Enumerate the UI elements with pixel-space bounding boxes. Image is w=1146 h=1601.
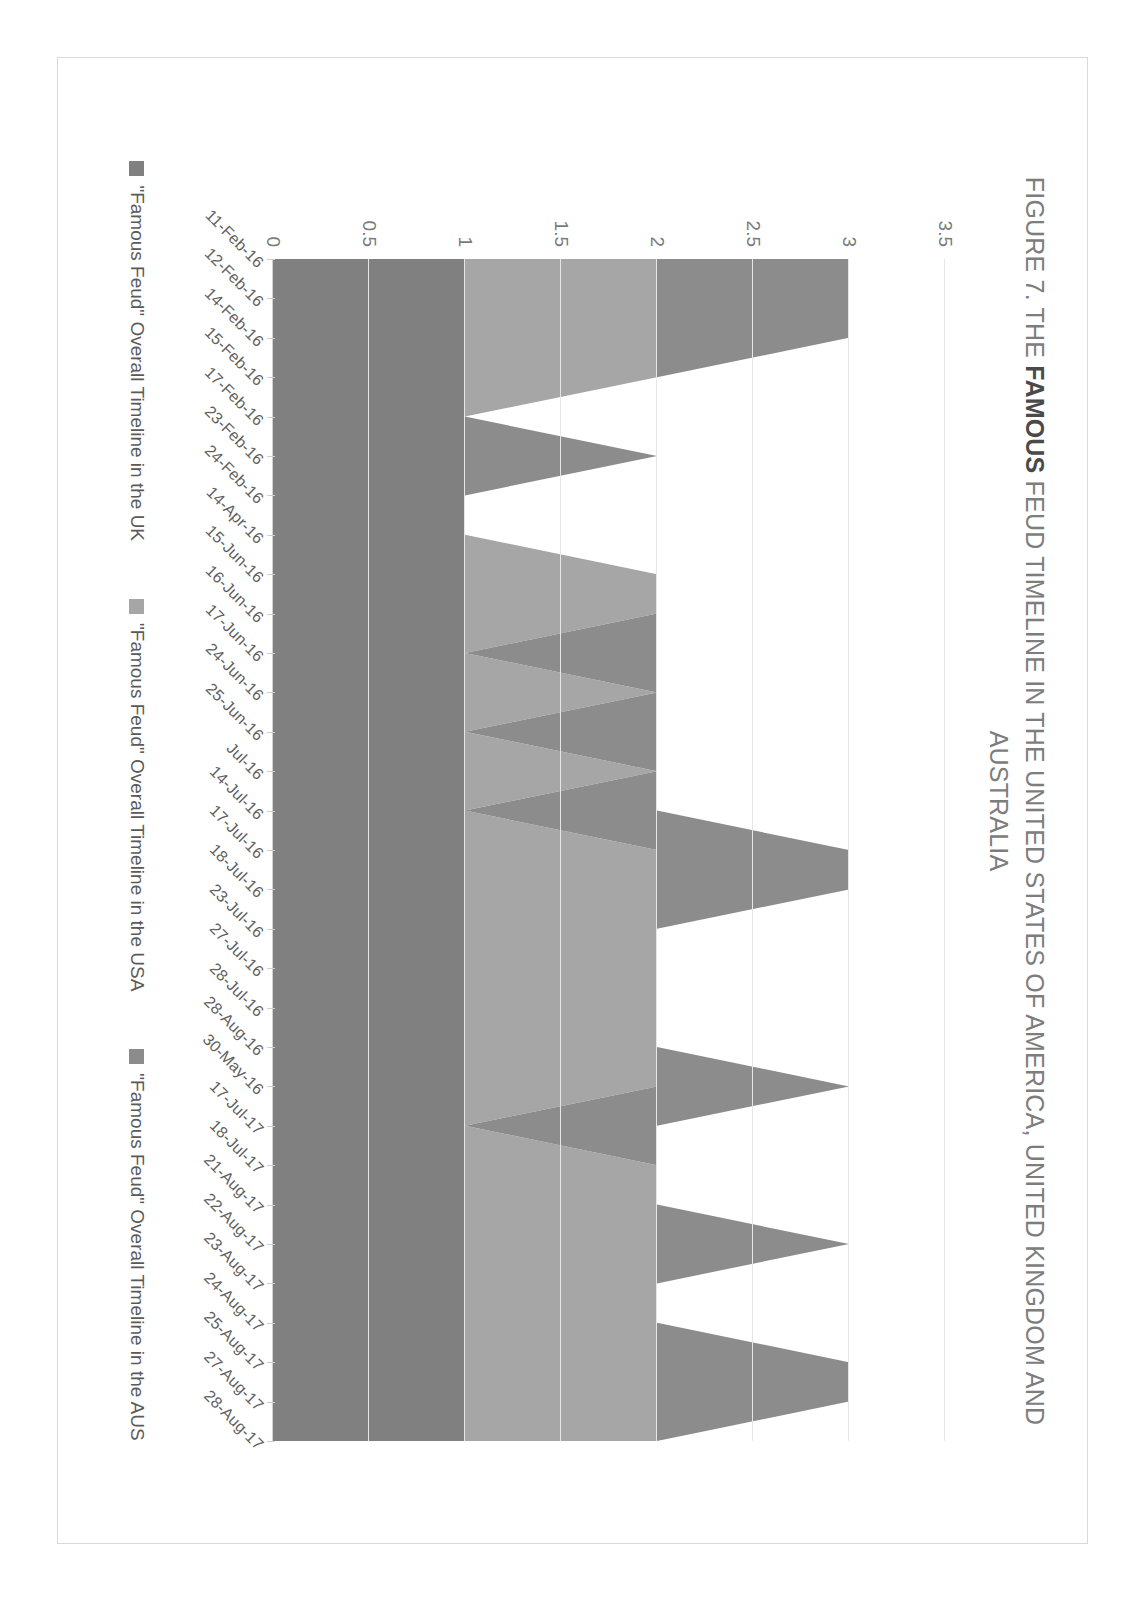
gridline	[752, 259, 753, 1441]
category-tick	[267, 613, 275, 614]
category-tick	[267, 1322, 275, 1323]
gridline	[560, 259, 561, 1441]
legend-swatch-icon	[130, 161, 145, 176]
value-axis-tick-label: 2	[646, 236, 668, 247]
category-tick	[267, 810, 275, 811]
category-tick	[267, 1165, 275, 1166]
plot-area: 00.511.522.533.5	[273, 259, 945, 1441]
category-tick	[267, 1086, 275, 1087]
category-tick	[267, 1441, 275, 1442]
category-tick	[267, 968, 275, 969]
category-tick	[267, 495, 275, 496]
category-tick	[267, 1007, 275, 1008]
value-axis-tick-label: 2.5	[742, 220, 764, 246]
gridline	[368, 259, 369, 1441]
category-tick	[267, 337, 275, 338]
value-axis-tick-label: 3	[838, 236, 860, 247]
legend-swatch-icon	[130, 1049, 145, 1064]
legend-swatch-icon	[130, 599, 145, 614]
category-tick	[267, 574, 275, 575]
value-axis-tick-label: 1.5	[550, 220, 572, 246]
category-tick	[267, 259, 275, 260]
legend-label: "Famous Feud" Overall Timeline in the UK	[126, 185, 148, 541]
gridline	[848, 259, 849, 1441]
title-bold-famous: FAMOUS	[1021, 365, 1049, 473]
category-tick	[267, 456, 275, 457]
legend-item[interactable]: "Famous Feud" Overall Timeline in the US…	[126, 599, 148, 991]
legend-item[interactable]: "Famous Feud" Overall Timeline in the UK	[126, 161, 148, 541]
legend-item[interactable]: "Famous Feud" Overall Timeline in the AU…	[126, 1049, 148, 1440]
title-prefix: FIGURE 7. THE	[1021, 176, 1049, 364]
category-tick	[267, 850, 275, 851]
category-tick	[267, 1283, 275, 1284]
category-tick	[267, 377, 275, 378]
legend-label: "Famous Feud" Overall Timeline in the US…	[126, 623, 148, 991]
gridline	[464, 259, 465, 1441]
figure-page: FIGURE 7. THE FAMOUS FEUD TIMELINE IN TH…	[0, 0, 1146, 1601]
category-tick	[267, 1125, 275, 1126]
category-tick	[267, 1401, 275, 1402]
stacked-area-series-group	[273, 259, 945, 1441]
category-tick	[267, 928, 275, 929]
category-tick	[267, 653, 275, 654]
title-suffix: FEUD TIMELINE IN THE UNITED STATES OF AM…	[985, 473, 1049, 1425]
category-tick	[267, 1362, 275, 1363]
gridline	[656, 259, 657, 1441]
category-tick	[267, 1244, 275, 1245]
category-tick	[267, 889, 275, 890]
area-series--famous-feud-overall-timeline-in-the-uk	[273, 259, 465, 1441]
category-tick	[267, 416, 275, 417]
value-axis-tick-label: 3.5	[934, 220, 956, 246]
plot-inner: 00.511.522.533.5	[273, 259, 945, 1441]
category-tick	[267, 1204, 275, 1205]
chart-stage-wrapper: FIGURE 7. THE FAMOUS FEUD TIMELINE IN TH…	[0, 0, 1146, 1601]
rotated-chart-stage: FIGURE 7. THE FAMOUS FEUD TIMELINE IN TH…	[83, 91, 1063, 1511]
value-axis-tick-label: 0.5	[358, 220, 380, 246]
category-tick	[267, 731, 275, 732]
value-axis-tick-label: 0	[262, 236, 284, 247]
legend-label: "Famous Feud" Overall Timeline in the AU…	[126, 1073, 148, 1440]
value-axis-tick-label: 1	[454, 236, 476, 247]
category-tick	[267, 692, 275, 693]
category-tick	[267, 534, 275, 535]
chart-legend: "Famous Feud" Overall Timeline in the UK…	[126, 91, 148, 1511]
chart-title: FIGURE 7. THE FAMOUS FEUD TIMELINE IN TH…	[981, 131, 1054, 1471]
category-tick	[267, 298, 275, 299]
category-tick	[267, 771, 275, 772]
gridline	[944, 259, 945, 1441]
category-tick	[267, 1047, 275, 1048]
